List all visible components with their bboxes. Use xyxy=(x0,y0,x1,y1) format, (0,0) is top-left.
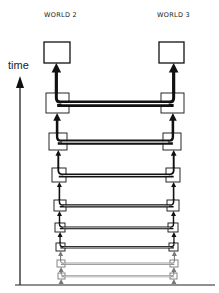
arrow-up-icon xyxy=(171,267,176,272)
arrow-up-icon xyxy=(55,150,61,156)
transfer-path-upper xyxy=(57,132,173,141)
time-axis xyxy=(16,76,24,285)
world-3-arrow xyxy=(171,211,176,223)
world-2-arrow xyxy=(53,113,61,133)
world-2-arrow xyxy=(59,279,64,284)
world-2-arrow xyxy=(55,150,61,168)
arrow-up-icon xyxy=(57,211,62,216)
world-2-arrow xyxy=(58,232,63,243)
arrow-up-icon xyxy=(169,113,177,121)
arrow-up-icon xyxy=(58,251,63,256)
world-3-arrow xyxy=(171,267,176,273)
arrow-up-icon xyxy=(171,279,176,284)
arrow-up-icon xyxy=(169,63,179,73)
world-2-arrow xyxy=(52,63,62,93)
world-3-arrow xyxy=(171,182,176,200)
world-3-arrow xyxy=(169,113,177,133)
arrow-up-icon xyxy=(171,232,176,237)
world-3-arrow xyxy=(171,150,177,168)
world-3-top-box xyxy=(159,42,184,63)
arrow-up-icon xyxy=(53,113,61,121)
transition-row xyxy=(52,150,180,182)
world-transition-diagram xyxy=(0,0,219,293)
arrow-up-icon xyxy=(59,267,64,272)
arrow-up-icon xyxy=(171,182,176,187)
world-2-arrow xyxy=(57,182,62,200)
transition-row xyxy=(57,251,178,267)
arrow-up-icon xyxy=(57,182,62,187)
transfer-path-upper xyxy=(60,222,174,227)
world-3-arrow xyxy=(169,63,179,93)
transition-rows xyxy=(46,63,184,284)
arrow-up-icon xyxy=(172,251,177,256)
transfer-path-upper xyxy=(58,167,173,174)
transition-row xyxy=(54,182,179,211)
transfer-path-upper xyxy=(56,92,173,102)
time-axis-arrow-icon xyxy=(16,76,24,88)
world-3-arrow xyxy=(172,251,177,260)
arrow-up-icon xyxy=(59,279,64,284)
transition-row xyxy=(49,113,181,150)
transfer-path-upper xyxy=(59,199,173,205)
arrow-up-icon xyxy=(52,63,62,73)
world-2-arrow xyxy=(57,211,62,223)
arrow-up-icon xyxy=(171,211,176,216)
transfer-path-upper xyxy=(61,259,175,263)
world-2-top-box xyxy=(44,42,70,63)
transfer-path-upper xyxy=(61,272,174,276)
world-2-arrow xyxy=(59,267,64,273)
world-3-arrow xyxy=(171,232,176,243)
transition-row xyxy=(46,63,184,113)
transition-row xyxy=(58,267,177,279)
world-2-arrow xyxy=(58,251,63,260)
top-world-boxes xyxy=(44,42,184,63)
transfer-path-upper xyxy=(60,242,174,247)
world-3-arrow xyxy=(171,279,176,284)
transition-row xyxy=(56,232,178,251)
transition-row xyxy=(55,211,178,232)
arrow-up-icon xyxy=(171,150,177,156)
arrow-up-icon xyxy=(58,232,63,237)
